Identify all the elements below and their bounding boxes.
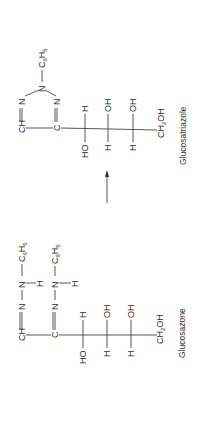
c4-right: OH <box>128 99 138 113</box>
row1-n1: N <box>17 304 27 311</box>
c3-left: H <box>103 145 113 152</box>
terminal-ch2oh: CH2OH <box>155 314 166 344</box>
c3-right: OH <box>103 99 113 113</box>
c3-right: H <box>78 312 88 319</box>
arrow-head-icon <box>105 170 109 177</box>
row1-h: H <box>35 281 45 288</box>
c4-right: OH <box>102 305 112 319</box>
glucosatriazole-structure: CH N N C6H5 C N HO H H OH H OH CH2OH Glu… <box>17 48 188 165</box>
reaction-arrow <box>105 170 109 203</box>
reaction-diagram: CH N N C6H5 C N HO H H OH H OH CH2OH Glu… <box>0 0 200 424</box>
row2-phenyl: C6H5 <box>50 244 61 264</box>
c4-left: H <box>128 145 138 152</box>
ring-n-apex: N <box>37 86 47 93</box>
row2-n2: N <box>50 282 60 289</box>
c2-right: H <box>80 106 90 113</box>
row1-ch: CH <box>17 328 27 341</box>
carbon-chain <box>61 128 157 130</box>
glucosazone-label: Glucosazone <box>177 308 187 358</box>
row2-h: H <box>70 281 80 288</box>
row1-n2: N <box>17 282 27 289</box>
ring-n-lower: N <box>52 99 62 106</box>
row2-n1: N <box>50 304 60 311</box>
c3-left: HO <box>78 351 88 365</box>
c5-left: H <box>126 351 136 358</box>
phenyl-substituent: C6H5 <box>37 48 48 68</box>
ring-n-top: N <box>17 99 27 106</box>
c4-left: H <box>102 351 112 358</box>
c5-right: OH <box>126 305 136 319</box>
terminal-ch2oh: CH2OH <box>156 108 167 138</box>
glucosazone-structure: CH N N H C6H5 C N N H C6H5 HO H H OH H O… <box>17 242 187 364</box>
ring-ch: CH <box>17 120 27 133</box>
c2-left: HO <box>80 145 90 159</box>
ring-c: C <box>52 124 62 131</box>
row1-phenyl: C6H5 <box>17 242 28 262</box>
glucosatriazole-label: Glucosatriazole <box>178 106 188 165</box>
row2-c: C <box>50 331 60 338</box>
